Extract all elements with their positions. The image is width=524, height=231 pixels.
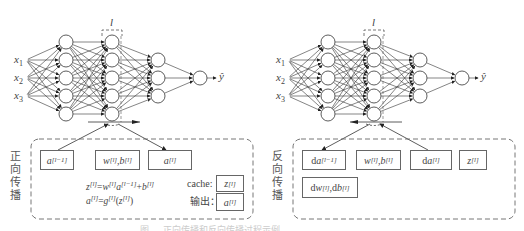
input-x2-left: x2	[14, 72, 23, 86]
forward-network	[27, 30, 216, 122]
box-a-l-minus-1: a[l−1]	[40, 150, 74, 170]
neuron-node	[105, 89, 119, 103]
neuron-node	[367, 71, 381, 85]
box-w-b: w[l], b[l]	[95, 150, 140, 170]
input-x1-right: x1	[276, 54, 285, 68]
figure-caption: 图 ... 正向传播和反向传播过程示例	[140, 223, 280, 231]
neuron-node	[59, 35, 73, 49]
box-dw-db: dw[l], db[l]	[302, 177, 358, 198]
input-x3-left: x3	[14, 90, 23, 104]
neuron-node	[59, 107, 73, 121]
formula-z: z[l]=w[l]a[l−1]+b[l]	[86, 180, 154, 192]
cache-label: cache:	[187, 179, 213, 189]
neuron-node	[105, 71, 119, 85]
backward-network	[289, 30, 478, 122]
neuron-node	[59, 89, 73, 103]
input-x2-right: x2	[276, 72, 285, 86]
network-diagrams	[0, 0, 524, 231]
neuron-node	[413, 89, 427, 103]
neuron-node	[151, 53, 165, 67]
box-z-l-back: z[l]	[459, 150, 487, 170]
neuron-node	[151, 89, 165, 103]
backward-io-arrows	[322, 120, 428, 150]
neuron-node	[193, 71, 207, 85]
input-x3-right: x3	[276, 90, 285, 104]
formula-a: a[l]=g[l](z[l])	[86, 194, 133, 206]
neuron-node	[321, 89, 335, 103]
neuron-node	[59, 71, 73, 85]
box-da-l-minus-1: da[l−1]	[302, 150, 346, 170]
backward-propagation-label: 反 向 传 播	[271, 150, 283, 202]
neuron-node	[59, 53, 73, 67]
neuron-node	[151, 71, 165, 85]
forward-propagation-label: 正 向 传 播	[9, 150, 21, 202]
forward-io-arrows	[58, 120, 166, 150]
box-w-b-back: w[l], b[l]	[356, 150, 401, 170]
neuron-node	[105, 53, 119, 67]
cache-box-z: z[l]	[216, 175, 244, 192]
output-yhat-right: ŷ	[481, 71, 486, 82]
box-a-l: a[l]	[148, 150, 192, 170]
neuron-node	[321, 53, 335, 67]
layer-l-label-right: l	[372, 17, 375, 28]
neuron-node	[105, 107, 119, 121]
neuron-node	[321, 107, 335, 121]
neuron-node	[321, 71, 335, 85]
neuron-node	[413, 71, 427, 85]
output-yhat-left: ŷ	[219, 71, 224, 82]
neuron-node	[321, 35, 335, 49]
box-da-l: da[l]	[410, 150, 452, 170]
neuron-node	[455, 71, 469, 85]
layer-l-label-left: l	[110, 17, 113, 28]
neuron-node	[413, 53, 427, 67]
neuron-node	[367, 107, 381, 121]
neuron-node	[367, 89, 381, 103]
neuron-node	[367, 35, 381, 49]
input-x1-left: x1	[14, 54, 23, 68]
neuron-node	[105, 35, 119, 49]
neuron-node	[367, 53, 381, 67]
output-box-a: a[l]	[216, 193, 244, 211]
